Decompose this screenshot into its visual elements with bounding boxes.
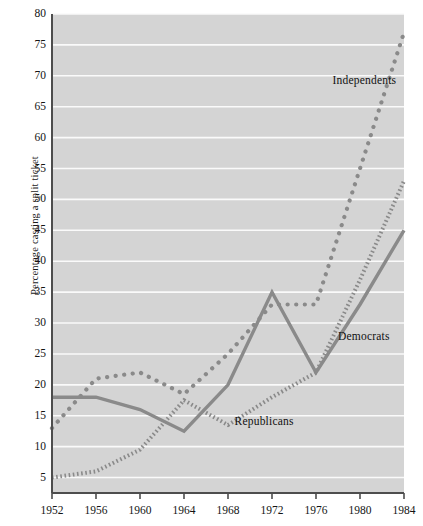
split-ticket-line-chart: Percentage casting a split ticket 510152… [0, 0, 423, 526]
x-tick-label: 1976 [305, 504, 328, 516]
x-tick-label: 1960 [129, 504, 152, 516]
x-tick-label: 1980 [349, 504, 372, 516]
x-tick-label: 1968 [217, 504, 240, 516]
x-tick-label: 1972 [261, 504, 284, 516]
series-label-democrats: Democrats [338, 330, 390, 342]
x-tick-label: 1952 [41, 504, 64, 516]
series-label-independents: Independents [333, 74, 397, 86]
x-tick-label: 1984 [393, 504, 416, 516]
x-tick-label: 1964 [173, 504, 196, 516]
x-tick-label: 1956 [85, 504, 108, 516]
series-label-republicans: Republicans [235, 415, 294, 427]
